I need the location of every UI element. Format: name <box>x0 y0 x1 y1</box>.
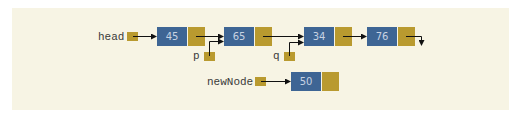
q-arrow <box>290 43 304 57</box>
pointer-arrows <box>0 0 525 117</box>
null-arrow <box>406 37 422 46</box>
p-arrow <box>210 42 224 57</box>
linked-list-diagram: head 45 65 p 34 q 76 newNode 50 <box>0 0 525 117</box>
